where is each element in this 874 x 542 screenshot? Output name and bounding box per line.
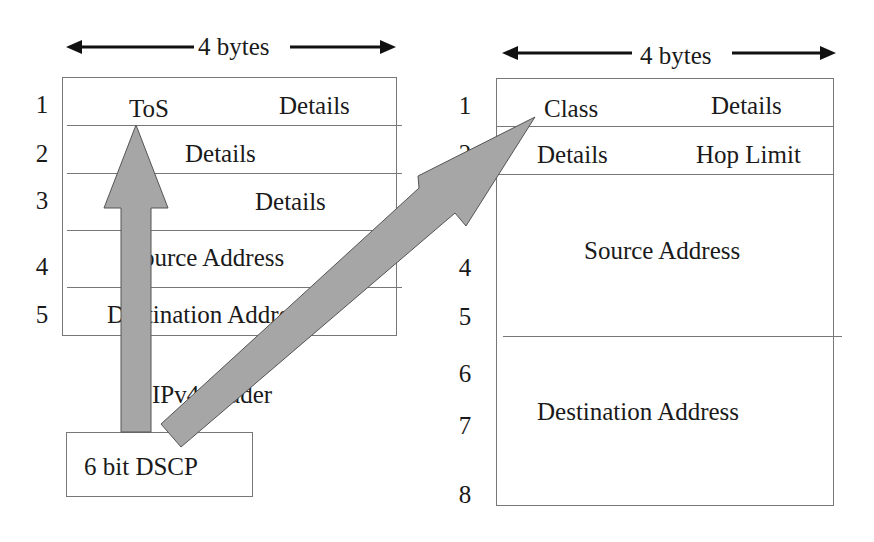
dscp-to-tos-arrow-icon <box>104 125 168 432</box>
dscp-to-class-arrow-icon <box>161 117 535 447</box>
mapping-arrows <box>0 0 874 542</box>
